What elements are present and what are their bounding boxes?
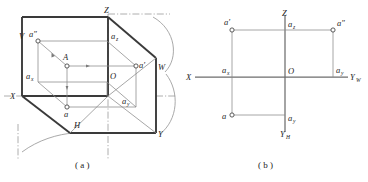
b-label-a-x-base: a — [222, 65, 226, 75]
b-label-y-h-subscript: H — [285, 134, 291, 140]
point-a-prime-marker — [134, 64, 138, 68]
b-label-point-a-double-prime: a″ — [337, 18, 345, 28]
b-point-a-prime-marker — [230, 28, 234, 32]
b-label-a-z-subscript: z — [292, 24, 296, 30]
fold-arc-bottom-left — [22, 133, 74, 152]
b-label-point-a-x: a x — [222, 65, 230, 76]
b-label-a-x-subscript: x — [226, 70, 230, 76]
label-plane-h: H — [73, 120, 81, 130]
b-label-a-z-base: a — [288, 19, 292, 29]
b-label-a-y-right-base: a — [336, 65, 340, 75]
b-label-origin-o: O — [288, 66, 294, 76]
b-label-point-a: a — [222, 111, 226, 121]
b-label-axis-z: Z — [282, 8, 287, 18]
b-label-point-a-prime: a′ — [224, 17, 230, 27]
point-a-double-prime-marker — [36, 39, 40, 43]
b-label-axis-y-w: Y W — [350, 72, 362, 83]
box-oblique-back-right — [107, 41, 136, 66]
b-label-a-y-bottom-subscript: y — [292, 118, 296, 124]
label-axis-x: X — [9, 91, 16, 101]
caption-b: ( b ) — [258, 160, 273, 170]
label-plane-w: W — [158, 62, 166, 72]
box-oblique-front-left — [38, 82, 67, 107]
fold-arc-right-lower — [160, 74, 175, 134]
label-point-a-z: a z — [111, 31, 119, 42]
arrow-to-top-view — [66, 86, 69, 90]
b-point-a-marker — [230, 113, 234, 117]
label-axis-y: Y — [158, 129, 164, 139]
b-point-a-double-prime-marker — [331, 28, 335, 32]
point-A-marker — [65, 64, 69, 68]
label-point-a-y: a y — [122, 96, 130, 107]
technical-drawing-figure: V H W X Y Z O A a″ a′ a a x a y a z ( a … — [0, 0, 368, 182]
b-projection-lines — [232, 30, 333, 115]
caption-a: ( a ) — [75, 160, 90, 170]
b-label-point-a-z: a z — [288, 19, 296, 30]
label-a-y-subscript: y — [126, 101, 130, 107]
b-label-point-a-y-bottom: a y — [288, 113, 296, 124]
b-label-a-y-right-subscript: y — [340, 70, 344, 76]
label-a-z-subscript: z — [115, 36, 119, 42]
arrow-to-front-view — [86, 65, 90, 68]
label-point-a: a — [64, 109, 68, 119]
panel-a-fold-arcs — [22, 17, 175, 152]
b-label-axis-x: X — [185, 72, 192, 82]
label-a-x-subscript: x — [30, 76, 34, 82]
label-point-A: A — [62, 52, 69, 62]
b-label-y-w-subscript: W — [356, 77, 362, 83]
label-a-x-base: a — [26, 71, 30, 81]
b-label-a-y-bottom-base: a — [288, 113, 292, 123]
label-point-a-double-prime: a″ — [29, 29, 37, 39]
label-origin-o: O — [110, 71, 116, 81]
projector-direction-arrows — [52, 53, 91, 90]
label-a-y-base: a — [122, 96, 126, 106]
panel-b-unfolded: a′ a″ a X Z O Y W Y H a x a y a y a z ( — [185, 8, 362, 170]
label-point-a-x: a x — [26, 71, 34, 82]
label-axis-z: Z — [104, 5, 109, 15]
label-a-z-base: a — [111, 31, 115, 41]
label-plane-v: V — [19, 31, 26, 41]
panel-a-pictorial: V H W X Y Z O A a″ a′ a a x a y a z ( a … — [4, 5, 176, 170]
b-label-point-a-y-right: a y — [336, 65, 344, 76]
h-plane-right-oblique-edge — [108, 96, 156, 133]
h-plane-left-oblique-edge — [22, 96, 70, 133]
label-point-a-prime: a′ — [139, 60, 145, 70]
